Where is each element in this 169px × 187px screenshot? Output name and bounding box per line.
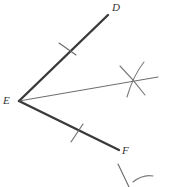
vertex-label-D: D bbox=[112, 2, 120, 13]
ray-EF bbox=[19, 101, 119, 150]
geometry-figure: D E F bbox=[0, 0, 169, 187]
geometry-canvas bbox=[0, 0, 169, 187]
vertex-label-E: E bbox=[3, 95, 10, 106]
stray-stroke-lower-right bbox=[118, 164, 129, 187]
vertex-label-F: F bbox=[122, 145, 129, 156]
stray-arc-lower-right bbox=[133, 176, 153, 182]
